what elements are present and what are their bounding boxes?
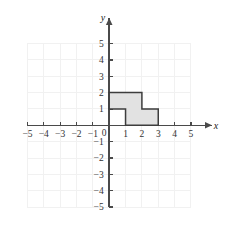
y-tick-label: 4	[99, 55, 104, 65]
x-tick-label: 4	[172, 129, 177, 139]
origin-label: 0	[102, 128, 107, 138]
x-axis-label: x	[213, 120, 219, 131]
coordinate-plane-svg: −5−4−3−2−11234554321−1−2−3−4−5 x y 0	[0, 0, 228, 236]
y-tick-label: 5	[99, 39, 104, 49]
x-tick-label: 5	[189, 129, 194, 139]
x-tick-label: −3	[55, 129, 65, 139]
plot-background	[0, 0, 228, 236]
x-tick-label: 1	[123, 129, 128, 139]
x-tick-label: −2	[71, 129, 81, 139]
x-tick-label: 2	[140, 129, 145, 139]
coordinate-plane-figure: −5−4−3−2−11234554321−1−2−3−4−5 x y 0	[0, 0, 228, 236]
y-tick-label: −3	[94, 170, 104, 180]
y-axis-label: y	[100, 12, 106, 23]
y-tick-label: −1	[94, 137, 104, 147]
y-tick-label: −5	[94, 202, 104, 212]
x-tick-label: 3	[156, 129, 161, 139]
y-tick-label: 2	[99, 88, 104, 98]
y-tick-label: −4	[94, 186, 104, 196]
x-tick-label: −4	[39, 129, 49, 139]
y-tick-label: 3	[99, 72, 104, 82]
y-tick-label: −2	[94, 153, 104, 163]
x-tick-label: −5	[22, 129, 32, 139]
y-tick-label: 1	[99, 104, 104, 114]
